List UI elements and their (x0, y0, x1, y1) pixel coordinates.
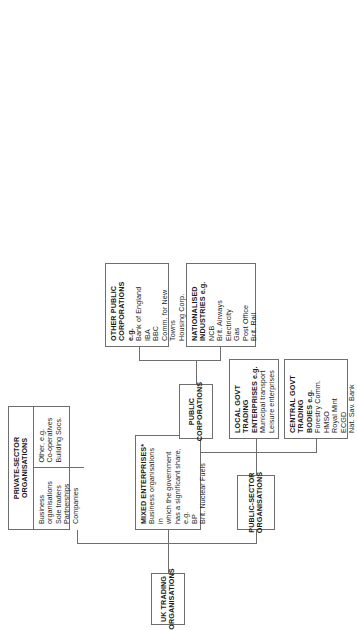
node-public-sector-organisations[interactable]: PUBLIC-SECTOR ORGANISATIONS (237, 475, 275, 530)
node-label-central-govt: CENTRAL GOVT TRADING BODIES e.g. (289, 365, 314, 433)
node-mixed-enterprises[interactable]: MIXED ENTERPRISES* Business organisation… (135, 435, 201, 530)
node-label-other-public-corporations: OTHER PUBLIC CORPORATIONS e.g. (110, 269, 135, 341)
private-sector-cell-other: Other, e.g. Co-operatives Building Socs. (34, 407, 84, 469)
edge-to-other-public-corporations (139, 347, 140, 361)
private-sector-cell-business: Business organisations Sole traders Part… (34, 469, 84, 530)
edge-spine-to-private-sector (77, 530, 78, 544)
edge-spine-to-mixed (168, 530, 169, 544)
node-body-mixed-enterprises: Business organisations in which the gove… (148, 441, 207, 524)
node-body-local-govt: Municipal transport Leisure enterprises (259, 365, 276, 433)
edge-to-central-govt (316, 439, 317, 453)
edge-main-spine (77, 543, 256, 544)
edge-public-corporations-spine (139, 360, 220, 361)
node-public-corporations[interactable]: PUBLIC CORPORATIONS (179, 384, 213, 439)
private-sector-cells: Business organisations Sole traders Part… (33, 407, 84, 529)
node-local-govt-trading-enterprises[interactable]: LOCAL GOVT TRADING ENTERPRISES e.g. Muni… (229, 359, 279, 439)
edge-to-local-govt (256, 439, 257, 453)
node-central-govt-trading-bodies[interactable]: CENTRAL GOVT TRADING BODIES e.g. Forestr… (284, 359, 348, 439)
node-nationalised-industries[interactable]: NATIONALISED INDUSTRIES e.g. NCB Brit. A… (186, 263, 256, 347)
node-label-public-sector: PUBLIC-SECTOR ORGANISATIONS (248, 472, 265, 533)
node-label-local-govt: LOCAL GOVT TRADING ENTERPRISES e.g. (234, 365, 259, 433)
node-private-sector-organisations[interactable]: PRIVATE-SECTOR ORGANISATIONS Business or… (8, 406, 70, 530)
node-label-nationalised-industries: NATIONALISED INDUSTRIES e.g. (191, 269, 208, 341)
node-body-central-govt: Forestry Comm. HMSO Royal Mint ECGD Nat.… (314, 365, 356, 433)
node-body-other-public-corporations: Bank of England IBA BBC Comm. for New To… (135, 269, 186, 341)
edge-to-nationalised-industries (220, 347, 221, 361)
node-label-public-corporations: PUBLIC CORPORATIONS (188, 382, 205, 441)
edge-public-corporations-stem (196, 361, 197, 384)
node-other-public-corporations[interactable]: OTHER PUBLIC CORPORATIONS e.g. Bank of E… (105, 263, 169, 347)
node-body-nationalised-industries: NCB Brit. Airways Electricity Gas Post O… (208, 269, 259, 341)
node-uk-trading-organisations[interactable]: UK TRADING ORGANISATIONS (151, 573, 185, 625)
node-label-root: UK TRADING ORGANISATIONS (160, 568, 177, 629)
node-label-private-sector: PRIVATE-SECTOR ORGANISATIONS (9, 407, 33, 529)
